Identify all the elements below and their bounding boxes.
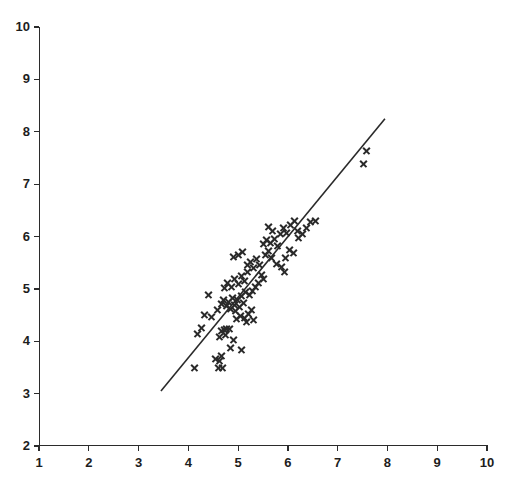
- data-point-marker: [251, 282, 260, 291]
- data-point-marker: [237, 291, 246, 300]
- data-point-marker: [259, 239, 268, 248]
- data-point-marker: [280, 267, 289, 276]
- data-point-marker: [286, 220, 295, 229]
- data-point-marker: [243, 260, 252, 269]
- data-point-marker: [273, 241, 282, 250]
- data-point-marker: [241, 287, 250, 296]
- data-point-marker: [246, 257, 255, 266]
- data-point-marker: [362, 146, 371, 155]
- data-point-marker: [294, 233, 303, 242]
- data-point-marker: [220, 283, 229, 292]
- data-point-marker: [298, 229, 307, 238]
- data-point-marker: [234, 250, 243, 259]
- data-point-marker: [204, 290, 213, 299]
- data-point-marker: [215, 356, 224, 365]
- data-point-marker: [240, 313, 249, 322]
- data-point-marker: [281, 253, 290, 262]
- data-point-marker: [311, 216, 320, 225]
- data-point-marker: [270, 234, 279, 243]
- data-point-marker: [217, 326, 226, 335]
- data-point-marker: [245, 290, 254, 299]
- data-point-marker: [237, 271, 246, 280]
- data-point-marker: [264, 222, 273, 231]
- data-point-marker: [257, 270, 266, 279]
- data-point-marker: [243, 267, 252, 276]
- data-point-marker: [240, 276, 249, 285]
- data-point-marker: [266, 238, 275, 247]
- data-point-marker: [235, 302, 244, 311]
- data-point-marker: [200, 310, 209, 319]
- data-point-marker: [285, 245, 294, 254]
- data-point-marker: [211, 354, 220, 363]
- data-point-marker: [219, 295, 228, 304]
- data-point-marker: [214, 363, 223, 372]
- data-point-marker: [234, 279, 243, 288]
- data-point-marker: [242, 317, 251, 326]
- data-point-marker: [222, 301, 231, 310]
- data-point-marker: [359, 159, 368, 168]
- data-point-marker: [279, 223, 288, 232]
- data-point-marker: [233, 295, 242, 304]
- data-point-marker: [207, 312, 216, 321]
- data-point-marker: [226, 343, 235, 352]
- data-point-marker: [222, 324, 231, 333]
- data-point-marker: [306, 217, 315, 226]
- data-points-layer: [39, 27, 487, 446]
- data-point-marker: [217, 299, 226, 308]
- data-point-marker: [255, 260, 264, 269]
- data-point-marker: [193, 329, 202, 338]
- scatter-plot-figure: 2345678910 12345678910: [0, 0, 514, 494]
- data-point-marker: [236, 311, 245, 320]
- data-point-marker: [218, 363, 227, 372]
- data-point-marker: [262, 235, 271, 244]
- data-point-marker: [264, 246, 273, 255]
- data-point-marker: [237, 345, 246, 354]
- data-point-marker: [224, 297, 233, 306]
- data-point-marker: [217, 351, 226, 360]
- data-point-marker: [231, 306, 240, 315]
- data-point-marker: [293, 226, 302, 235]
- data-point-marker: [190, 363, 199, 372]
- data-point-marker: [259, 274, 268, 283]
- data-point-marker: [276, 229, 285, 238]
- data-point-marker: [261, 250, 270, 259]
- data-point-marker: [244, 309, 253, 318]
- data-point-marker: [267, 253, 276, 262]
- data-point-marker: [238, 247, 247, 256]
- data-point-marker: [225, 324, 234, 333]
- data-point-marker: [197, 323, 206, 332]
- data-point-marker: [302, 223, 311, 232]
- data-point-marker: [239, 298, 248, 307]
- data-point-marker: [254, 278, 263, 287]
- data-point-marker: [249, 263, 258, 272]
- data-point-marker: [215, 332, 224, 341]
- data-point-marker: [290, 216, 299, 225]
- data-point-marker: [230, 274, 239, 283]
- data-point-marker: [229, 252, 238, 261]
- data-point-marker: [220, 325, 229, 334]
- data-point-marker: [221, 330, 230, 339]
- data-point-marker: [268, 226, 277, 235]
- data-point-marker: [226, 304, 235, 313]
- data-point-marker: [229, 335, 238, 344]
- data-point-marker: [252, 254, 261, 263]
- data-point-marker: [223, 278, 232, 287]
- data-point-marker: [227, 282, 236, 291]
- data-point-marker: [230, 300, 239, 309]
- data-point-marker: [249, 315, 258, 324]
- data-point-marker: [248, 286, 257, 295]
- data-point-marker: [282, 228, 291, 237]
- data-point-marker: [247, 305, 256, 314]
- data-point-marker: [213, 305, 222, 314]
- data-point-marker: [289, 248, 298, 257]
- data-point-marker: [272, 259, 281, 268]
- data-point-marker: [277, 262, 286, 271]
- data-point-marker: [232, 314, 241, 323]
- data-point-marker: [228, 293, 237, 302]
